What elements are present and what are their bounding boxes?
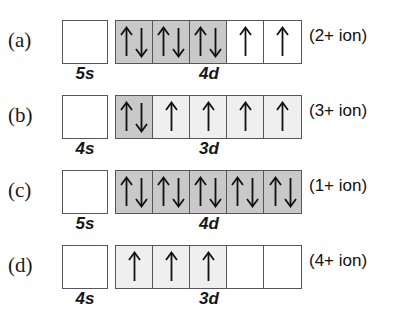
electron-arrows: [264, 171, 301, 213]
part-label: (d): [8, 253, 56, 278]
electron-arrows: [116, 246, 152, 288]
arrow-up-icon: [157, 176, 170, 208]
arrow-down-icon: [135, 101, 148, 133]
s-orbital-box: [62, 170, 108, 214]
s-orbital-label: 5s: [62, 214, 108, 234]
arrow-down-icon: [135, 26, 148, 58]
orbital-row: (c)5s4d(1+ ion): [0, 162, 398, 237]
part-label: (b): [8, 103, 56, 128]
d-orbital-cell: [116, 171, 153, 213]
s-orbital-box: [62, 95, 108, 139]
arrow-down-icon: [246, 176, 259, 208]
arrow-up-icon: [120, 101, 133, 133]
electron-arrows: [264, 96, 301, 138]
arrow-down-icon: [209, 176, 222, 208]
arrow-up-icon: [157, 26, 170, 58]
arrow-up-icon: [239, 26, 252, 58]
part-label: (c): [8, 178, 56, 203]
arrow-up-icon: [239, 101, 252, 133]
electron-arrows: [116, 171, 152, 213]
electron-arrows: [153, 246, 189, 288]
arrow-up-icon: [269, 176, 282, 208]
d-orbital-label: 4d: [115, 64, 303, 84]
arrow-down-icon: [284, 176, 297, 208]
ion-charge-label: (2+ ion): [309, 26, 367, 46]
electron-arrows: [227, 96, 263, 138]
arrow-down-icon: [172, 176, 185, 208]
arrow-down-icon: [172, 26, 185, 58]
arrow-down-icon: [209, 26, 222, 58]
electron-arrows: [227, 171, 263, 213]
ion-charge-label: (3+ ion): [309, 101, 367, 121]
electron-arrows: [264, 246, 301, 288]
arrow-up-icon: [194, 26, 207, 58]
s-orbital-label: 4s: [62, 139, 108, 159]
d-orbital-label: 4d: [115, 214, 303, 234]
arrow-up-icon: [202, 251, 215, 283]
electron-arrows: [227, 21, 263, 63]
d-orbital-strip: [115, 95, 302, 139]
arrow-up-icon: [128, 251, 141, 283]
electron-arrows: [227, 246, 263, 288]
arrow-up-icon: [231, 176, 244, 208]
electron-arrows: [153, 171, 189, 213]
electron-arrows: [153, 96, 189, 138]
electron-arrows: [190, 171, 226, 213]
d-orbital-cell: [190, 171, 227, 213]
arrow-up-icon: [276, 26, 289, 58]
d-orbital-cell: [116, 96, 153, 138]
d-orbital-cell: [153, 246, 190, 288]
d-orbital-label: 3d: [115, 139, 303, 159]
d-orbital-cell: [264, 171, 301, 213]
ion-charge-label: (1+ ion): [309, 176, 367, 196]
part-label: (a): [8, 28, 56, 53]
s-orbital-box: [62, 20, 108, 64]
orbital-row: (d)4s3d(4+ ion): [0, 237, 398, 312]
arrow-up-icon: [202, 101, 215, 133]
arrow-up-icon: [276, 101, 289, 133]
electron-arrows: [190, 96, 226, 138]
d-orbital-strip: [115, 245, 302, 289]
electron-arrows: [116, 96, 152, 138]
arrow-up-icon: [165, 101, 178, 133]
d-orbital-cell: [227, 246, 264, 288]
d-orbital-cell: [227, 96, 264, 138]
arrow-up-icon: [194, 176, 207, 208]
orbital-row: (b)4s3d(3+ ion): [0, 87, 398, 162]
electron-arrows: [116, 21, 152, 63]
d-orbital-cell: [153, 21, 190, 63]
orbital-row: (a)5s4d(2+ ion): [0, 12, 398, 87]
arrow-up-icon: [120, 176, 133, 208]
d-orbital-cell: [153, 96, 190, 138]
d-orbital-cell: [264, 96, 301, 138]
d-orbital-cell: [116, 21, 153, 63]
electron-arrows: [190, 21, 226, 63]
d-orbital-cell: [264, 21, 301, 63]
arrow-up-icon: [120, 26, 133, 58]
d-orbital-cell: [264, 246, 301, 288]
orbital-diagram-figure: (a)5s4d(2+ ion)(b)4s3d(3+ ion)(c)5s4d(1+…: [0, 0, 398, 318]
s-orbital-box: [62, 245, 108, 289]
s-orbital-label: 4s: [62, 289, 108, 309]
d-orbital-strip: [115, 20, 302, 64]
d-orbital-cell: [190, 96, 227, 138]
d-orbital-cell: [190, 246, 227, 288]
d-orbital-cell: [190, 21, 227, 63]
d-orbital-cell: [116, 246, 153, 288]
d-orbital-cell: [227, 21, 264, 63]
s-orbital-label: 5s: [62, 64, 108, 84]
d-orbital-strip: [115, 170, 302, 214]
electron-arrows: [190, 246, 226, 288]
d-orbital-cell: [153, 171, 190, 213]
arrow-up-icon: [165, 251, 178, 283]
electron-arrows: [153, 21, 189, 63]
electron-arrows: [264, 21, 301, 63]
d-orbital-cell: [227, 171, 264, 213]
d-orbital-label: 3d: [115, 289, 303, 309]
ion-charge-label: (4+ ion): [309, 251, 367, 271]
arrow-down-icon: [135, 176, 148, 208]
